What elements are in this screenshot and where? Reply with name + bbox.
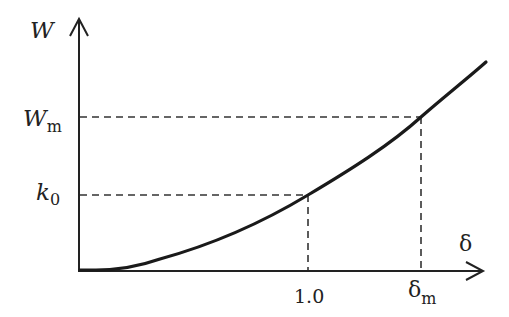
x-axis-label: δ	[459, 231, 472, 256]
w-delta-curve	[80, 62, 486, 270]
wm-tick-label: Wm	[23, 105, 62, 136]
k0-tick-label: k0	[36, 179, 60, 209]
guide-lines	[80, 117, 421, 270]
y-axis-label: W	[30, 17, 56, 43]
dm-tick-label: δm	[408, 277, 436, 308]
diagram-figure: W Wm k0 δ 1.0 δm	[0, 0, 509, 317]
one-tick-label: 1.0	[294, 285, 324, 307]
